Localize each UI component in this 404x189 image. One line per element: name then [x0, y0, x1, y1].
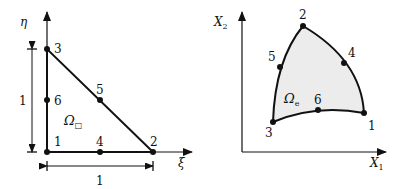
elem-node-4	[341, 60, 347, 66]
ref-node-label-1: 1	[54, 135, 62, 149]
ref-node-label-5: 5	[96, 83, 104, 97]
elem-node-label-4: 4	[348, 46, 356, 60]
ref-node-6	[44, 97, 50, 103]
horizontal-dimension-label: 1	[96, 174, 104, 188]
elem-node-label-1: 1	[368, 119, 376, 133]
eta-axis-label: η	[20, 15, 28, 29]
ref-node-1	[44, 149, 50, 155]
ref-node-3	[44, 46, 50, 52]
ref-node-label-3: 3	[54, 42, 62, 56]
reference-domain-label: Ω□	[63, 113, 82, 130]
ref-node-label-4: 4	[96, 135, 104, 149]
ref-node-2	[150, 149, 156, 155]
ref-node-label-2: 2	[150, 135, 158, 149]
elem-node-6	[315, 107, 321, 113]
ref-node-label-6: 6	[54, 94, 62, 108]
reference-element-diagram: η ξ Ω□ 1 2 3 4 5 6 1 1	[19, 12, 192, 188]
elem-node-2	[300, 23, 306, 29]
elem-node-label-5: 5	[268, 50, 276, 64]
figure: η ξ Ω□ 1 2 3 4 5 6 1 1 X2 X1	[0, 0, 404, 189]
x1-axis-label: X1	[369, 156, 384, 172]
elem-node-label-3: 3	[265, 126, 273, 140]
elem-node-3	[270, 119, 276, 125]
elem-node-label-2: 2	[299, 8, 307, 22]
ref-node-5	[97, 97, 103, 103]
elem-node-label-6: 6	[314, 93, 322, 107]
elem-node-1	[361, 110, 367, 116]
x2-axis-label: X2	[213, 15, 228, 31]
ref-node-4	[97, 149, 103, 155]
vertical-dimension-label: 1	[19, 94, 27, 108]
physical-element-diagram: X2 X1 Ωe 1 2 3 4 5 6	[213, 8, 386, 172]
elem-node-5	[277, 64, 283, 70]
xi-axis-label: ξ	[178, 156, 186, 170]
